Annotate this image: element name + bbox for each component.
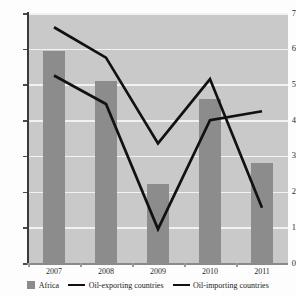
line-swatch-icon [173,284,190,287]
gridline [28,120,288,122]
x-axis-tick-label: 2008 [86,267,126,276]
x-axis-line [27,263,288,265]
y-axis-tick-label: 5 [274,80,296,89]
bar [199,99,221,263]
bar [147,184,169,263]
gridline [28,84,288,86]
x-axis-tick-mark [184,263,186,267]
legend-item-oil-exporting-countries: Oil-exporting countries [68,281,163,290]
x-axis-tick-label: 2009 [138,267,178,276]
legend-item-oil-importing-countries: Oil-importing countries [173,281,269,290]
bar-swatch-icon [27,281,35,289]
y-axis-tick-mark [23,84,27,86]
x-axis-tick-label: 2007 [34,267,74,276]
y-axis-line [27,12,29,264]
x-axis-tick-mark [28,263,30,267]
y-axis-tick-label: 2 [274,187,296,196]
y-axis-tick-label: 6 [274,44,296,53]
x-axis-tick-label: 2010 [190,267,230,276]
x-axis-tick-mark [80,263,82,267]
y-axis-tick-mark [23,120,27,122]
bar [251,163,273,263]
y-axis-tick-mark [23,192,27,194]
y-axis-tick-label: 7 [274,9,296,18]
legend-item-africa: Africa [27,281,59,290]
x-axis-tick-mark [132,263,134,267]
y-axis-tick-mark [23,13,27,15]
line-swatch-icon [68,284,85,287]
y-axis-tick-label: 0 [274,259,296,268]
gridline [28,49,288,51]
y-axis-tick-label: 1 [274,223,296,232]
bar [43,51,65,264]
y-axis-tick-mark [23,263,27,265]
y-axis-tick-mark [23,156,27,158]
bar [95,81,117,263]
x-axis-tick-label: 2011 [242,267,282,276]
chart-container: 01234567 20072008200920102011 Africa Oil… [0,0,296,297]
y-axis-tick-label: 3 [274,151,296,160]
legend-label-oil-exporting-countries: Oil-exporting countries [89,281,164,290]
legend-label-oil-importing-countries: Oil-importing countries [193,281,269,290]
y-axis-tick-label: 4 [274,116,296,125]
legend-label-africa: Africa [39,281,59,290]
y-axis-tick-mark [23,49,27,51]
gridline [28,156,288,158]
gridline [28,13,288,15]
y-axis-tick-mark [23,227,27,229]
x-axis-tick-mark [236,263,238,267]
chart-legend: Africa Oil-exporting countries Oil-impor… [0,278,296,292]
